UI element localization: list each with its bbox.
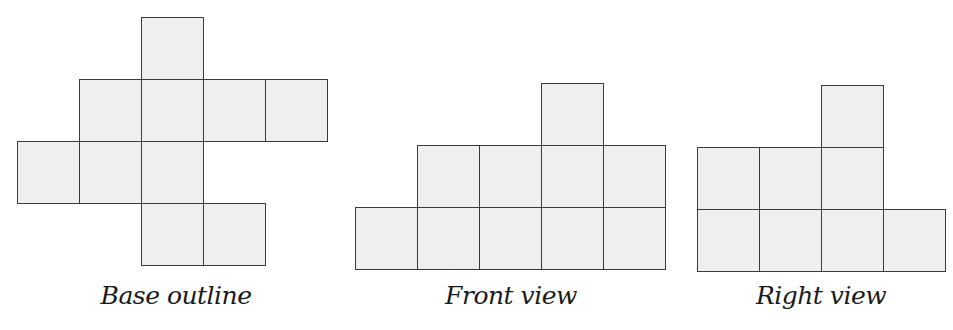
base-outline-caption: Base outline [101,281,252,310]
grid-cell [417,145,480,208]
right-view-caption: Right view [756,281,886,310]
grid-cell [821,147,884,210]
grid-cell [759,209,822,272]
grid-cell [17,141,80,204]
grid-cell [479,145,542,208]
grid-cell [417,207,480,270]
grid-cell [603,207,666,270]
grid-cell [79,79,142,142]
grid-cell [141,203,204,266]
grid-cell [541,83,604,146]
grid-cell [821,85,884,148]
grid-cell [603,145,666,208]
grid-cell [697,209,760,272]
grid-cell [541,207,604,270]
grid-cell [759,147,822,210]
grid-cell [541,145,604,208]
grid-cell [265,79,328,142]
grid-cell [883,209,946,272]
grid-cell [79,141,142,204]
grid-cell [697,147,760,210]
grid-cell [141,141,204,204]
grid-cell [141,17,204,80]
grid-cell [203,79,266,142]
grid-cell [203,203,266,266]
grid-cell [821,209,884,272]
grid-cell [141,79,204,142]
front-view-caption: Front view [445,281,577,310]
grid-cell [479,207,542,270]
grid-cell [355,207,418,270]
